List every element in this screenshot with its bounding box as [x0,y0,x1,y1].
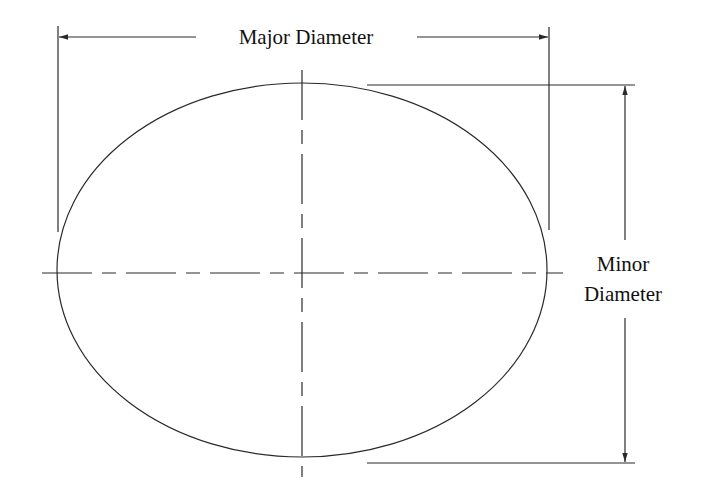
minor-diameter-label-line2: Diameter [584,282,662,306]
minor-diameter-label-line1: Minor [597,252,650,276]
major-diameter-label: Major Diameter [239,25,374,49]
ellipse-diameter-diagram: Major Diameter Minor Diameter [0,0,709,492]
